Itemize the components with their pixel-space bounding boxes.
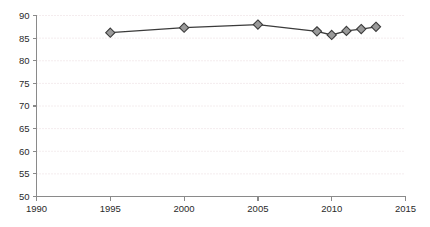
series-line-group — [110, 25, 376, 35]
y-tick-labels-group: 505560657075808590 — [19, 10, 30, 202]
series-line — [110, 25, 376, 35]
y-tick-label: 55 — [19, 168, 30, 179]
x-tick-label: 1990 — [26, 203, 47, 214]
x-tick-label: 1995 — [100, 203, 121, 214]
data-point-marker — [312, 27, 321, 36]
data-point-marker — [106, 28, 115, 37]
x-tick-label: 2015 — [395, 203, 416, 214]
chart-canvas: 505560657075808590 199019952000200520102… — [0, 0, 430, 227]
y-tick-label: 70 — [19, 100, 30, 111]
axes-group — [33, 15, 406, 201]
line-chart: 505560657075808590 199019952000200520102… — [0, 0, 430, 227]
data-point-marker — [180, 23, 189, 32]
data-point-marker — [342, 26, 351, 35]
x-tick-label: 2000 — [174, 203, 195, 214]
y-tick-label: 75 — [19, 78, 30, 89]
x-tick-label: 2010 — [321, 203, 342, 214]
data-point-marker — [357, 24, 366, 33]
gridlines-group — [37, 16, 406, 197]
data-point-marker — [253, 20, 262, 29]
x-tick-label: 2005 — [247, 203, 268, 214]
y-tick-label: 80 — [19, 55, 30, 66]
y-tick-label: 85 — [19, 33, 30, 44]
y-tick-label: 65 — [19, 123, 30, 134]
y-tick-label: 90 — [19, 10, 30, 21]
x-tick-labels-group: 199019952000200520102015 — [26, 203, 416, 214]
data-point-marker — [371, 22, 380, 31]
y-tick-label: 60 — [19, 146, 30, 157]
y-tick-label: 50 — [19, 191, 30, 202]
